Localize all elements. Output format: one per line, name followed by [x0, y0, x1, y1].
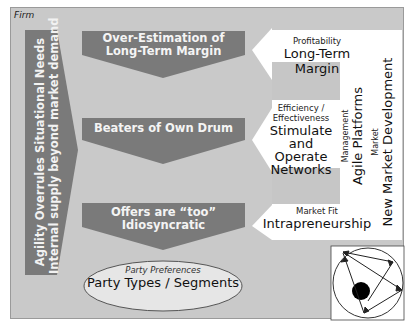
profitability-block: Profitability Long-Term Margin [264, 37, 370, 77]
network-core-dot [352, 282, 370, 300]
networks-label: Networks [262, 163, 340, 176]
chevron-line: Idiosyncratic [82, 219, 245, 232]
marketfit-block: Market Fit Intrapreneurship [262, 207, 372, 232]
chevron-beaters-label: Beaters of Own Drum [82, 122, 245, 135]
market-block: Market New Market Development [370, 52, 395, 232]
management-block: Management Agile Platforms [340, 76, 365, 196]
internal-supply-label: Internal supply beyond market demand [47, 30, 61, 274]
long-term-margin-label: Long-Term Margin [264, 47, 370, 77]
agile-platforms-label: Agile Platforms [351, 76, 365, 196]
agility-label: Agility Overrules Situational Needs [33, 30, 47, 274]
operate-label: Operate [262, 150, 340, 163]
chevron-overestimation-label: Over-Estimation of Long-Term Margin [82, 32, 245, 58]
intrapreneurship-label: Intrapreneurship [262, 217, 372, 232]
chevron-offers-label: Offers are “too” Idiosyncratic [82, 206, 245, 232]
stimulate-label: Stimulate and [262, 124, 340, 150]
left-arrow-text: Agility Overrules Situational Needs Inte… [33, 30, 61, 274]
chevron-line: Long-Term Margin [82, 45, 245, 58]
ellipse-text: Party Preferences Party Types / Segments [84, 266, 242, 291]
efficiency-block: Efficiency / Effectiveness Stimulate and… [262, 104, 340, 176]
party-types-label: Party Types / Segments [84, 276, 242, 291]
new-market-development-label: New Market Development [381, 52, 395, 232]
